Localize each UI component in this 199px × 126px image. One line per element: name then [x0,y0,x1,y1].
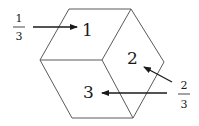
fraction-1-numerator: 1 [16,12,23,25]
face-label-2: 2 [127,48,138,68]
fraction-2-denominator: 3 [181,98,188,111]
face-label-1: 1 [82,20,93,40]
cube-outline [40,9,164,118]
edge-center-bottomright [102,60,133,118]
cube-diagram: 1 2 3 1 3 2 3 [0,0,199,126]
arrow-to-face-2 [144,67,172,82]
fraction-one-third: 1 3 [13,12,25,43]
fraction-2-numerator: 2 [181,79,188,92]
fraction-two-thirds: 2 3 [178,79,190,111]
face-label-3: 3 [83,82,94,102]
fraction-1-denominator: 3 [16,30,23,43]
